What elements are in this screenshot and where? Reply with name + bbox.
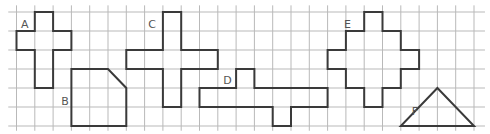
shape-c xyxy=(126,12,218,107)
shape-d xyxy=(200,69,328,126)
shape-b xyxy=(71,69,126,126)
shape-labels: ABCDEF xyxy=(21,18,418,117)
shape-label-c: C xyxy=(148,18,156,31)
shape-e xyxy=(328,12,420,107)
shape-label-a: A xyxy=(21,18,29,31)
shape-label-f: F xyxy=(412,105,418,118)
grid-diagram: ABCDEF xyxy=(0,0,490,134)
shape-label-d: D xyxy=(223,74,231,87)
shapes xyxy=(17,12,475,126)
shape-label-b: B xyxy=(61,95,69,108)
shape-label-e: E xyxy=(344,18,351,31)
